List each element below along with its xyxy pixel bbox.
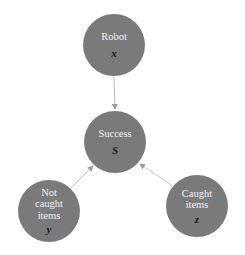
node-variable: y: [47, 223, 52, 235]
edge-robot-to-success: [114, 77, 115, 109]
node-robot: Robot x: [83, 14, 145, 76]
node-label: items: [186, 199, 209, 211]
node-label: Success: [98, 128, 131, 140]
node-label: Robot: [101, 31, 127, 43]
edge-caught-to-success: [140, 164, 173, 186]
edge-not-caught-to-success: [71, 166, 93, 188]
node-label: Not: [41, 187, 57, 199]
node-not-caught-items: Not caught items y: [18, 180, 80, 242]
node-variable: S: [112, 144, 118, 156]
node-label: Caught: [182, 188, 212, 200]
node-label: items: [38, 210, 61, 222]
node-label: caught: [35, 198, 63, 210]
node-variable: z: [195, 213, 199, 225]
node-variable: x: [111, 47, 117, 59]
node-success: Success S: [84, 111, 146, 173]
node-caught-items: Caught items z: [166, 175, 228, 237]
